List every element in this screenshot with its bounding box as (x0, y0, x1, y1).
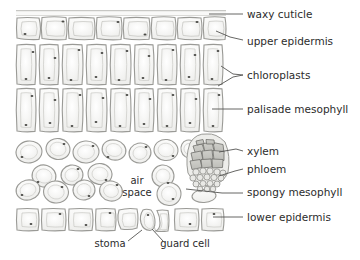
label-chloroplasts: chloroplasts (247, 69, 310, 81)
waxy-cuticle-layer (16, 11, 226, 16)
palisade-mesophyll-row-1 (16, 44, 223, 84)
label-upper-epidermis: upper epidermis (247, 35, 333, 47)
spongy-mesophyll-layer (14, 137, 216, 207)
vascular-bundle (187, 134, 229, 192)
label-spongy-mesophyll: spongy mesophyll (247, 186, 342, 198)
label-phloem: phloem (247, 163, 286, 175)
label-lower-epidermis: lower epidermis (247, 211, 331, 223)
leaf-diagram-canvas: waxy cuticle upper epidermis chloroplast… (0, 0, 360, 260)
palisade-mesophyll-row-2 (16, 88, 223, 131)
lower-epidermis-layer (17, 208, 225, 231)
label-xylem: xylem (247, 145, 279, 157)
palisade-vacuoles (21, 49, 219, 81)
label-stoma: stoma (94, 238, 125, 249)
label-palisade-mesophyll: palisade mesophyll (247, 103, 348, 115)
label-waxy-cuticle: waxy cuticle (247, 8, 312, 20)
leader-stoma (128, 230, 142, 241)
leader-chloroplasts-a (221, 66, 243, 75)
label-guard-cell: guard cell (160, 238, 209, 249)
leaf-cross-section-figure: waxy cuticle upper epidermis chloroplast… (0, 0, 360, 260)
label-air-space-line1: air (130, 175, 144, 186)
label-air-space-line2: space (122, 187, 151, 198)
phloem-tissue (190, 168, 226, 192)
